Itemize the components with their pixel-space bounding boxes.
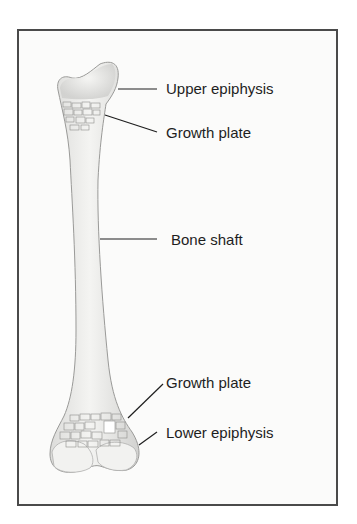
leader-lower-epiphysis: [139, 432, 157, 445]
label-lower-growth-plate: Growth plate: [166, 375, 251, 390]
label-upper-growth-plate: Growth plate: [166, 125, 251, 140]
bone-shape: [50, 62, 139, 472]
label-upper-epiphysis: Upper epiphysis: [166, 81, 274, 96]
bone-illustration: [0, 0, 357, 524]
label-bone-shaft: Bone shaft: [171, 232, 243, 247]
leader-upper-growth-plate: [105, 115, 157, 132]
label-lower-epiphysis: Lower epiphysis: [166, 425, 274, 440]
leader-lower-growth-plate: [128, 384, 163, 418]
